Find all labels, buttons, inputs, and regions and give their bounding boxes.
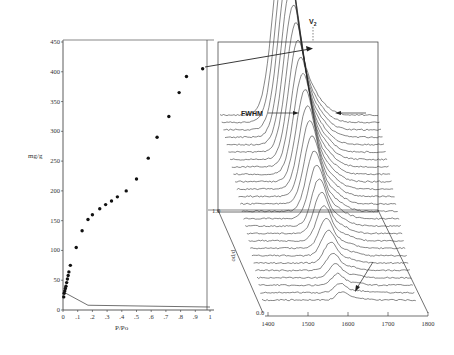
data-point bbox=[147, 156, 150, 159]
y-tick-label: 100 bbox=[50, 246, 60, 253]
data-point bbox=[69, 264, 72, 267]
spectra-traces bbox=[220, 0, 416, 301]
data-point bbox=[167, 115, 170, 118]
wavenumber-ticks: 14001500160017001800 bbox=[262, 312, 435, 327]
x-tick-label: .4 bbox=[119, 313, 125, 320]
x-ticks: 0.1.2.3.4.5.6.7.8.91 bbox=[61, 310, 211, 320]
x-tick-label: .9 bbox=[193, 313, 198, 320]
y-tick-label: 350 bbox=[50, 98, 60, 105]
y-tick-label: 300 bbox=[50, 127, 60, 134]
x-tick-label: .1 bbox=[75, 313, 80, 320]
depth-axis-label: p/po bbox=[231, 250, 238, 262]
data-point bbox=[86, 218, 89, 221]
wavenumber-tick-label: 1800 bbox=[422, 320, 435, 327]
x-axis-label: P/Po bbox=[115, 324, 129, 332]
y-tick-label: 50 bbox=[54, 276, 61, 283]
arrow-head-icon bbox=[306, 46, 313, 52]
data-point bbox=[91, 213, 94, 216]
y-tick-label: 400 bbox=[50, 68, 60, 75]
spectrum-trace bbox=[259, 273, 413, 286]
data-point bbox=[66, 274, 69, 277]
y-tick-label: 450 bbox=[50, 38, 60, 45]
data-point bbox=[185, 75, 188, 78]
y-axis-label: mg/g bbox=[28, 152, 43, 160]
data-point bbox=[177, 91, 180, 94]
depth-bottom-label: 0.0 bbox=[256, 309, 264, 316]
data-point bbox=[64, 284, 67, 287]
y-ticks: 050100150200250300350400450 bbox=[50, 38, 63, 313]
data-point bbox=[98, 207, 101, 210]
data-point bbox=[135, 177, 138, 180]
data-point bbox=[66, 277, 69, 280]
x-tick-label: .8 bbox=[178, 313, 183, 320]
data-point bbox=[65, 281, 68, 284]
data-point bbox=[75, 246, 78, 249]
x-tick-label: .3 bbox=[105, 313, 110, 320]
wavenumber-tick-label: 1400 bbox=[262, 320, 275, 327]
x-tick-label: .6 bbox=[149, 313, 155, 320]
depth-top-label: 1.0 bbox=[212, 207, 220, 214]
data-point bbox=[67, 270, 70, 273]
peak-label: V2 bbox=[309, 18, 317, 27]
x-tick-label: .7 bbox=[163, 313, 169, 320]
y-tick-label: 150 bbox=[50, 217, 60, 224]
wavenumber-tick-label: 1500 bbox=[302, 320, 315, 327]
spectrum-trace bbox=[262, 292, 416, 301]
data-points bbox=[62, 67, 204, 298]
y-tick-label: 0 bbox=[57, 306, 60, 313]
x-tick-label: 1 bbox=[208, 313, 211, 320]
y-tick-label: 250 bbox=[50, 157, 60, 164]
data-point bbox=[201, 67, 204, 70]
baseline-line bbox=[66, 293, 210, 307]
wavenumber-tick-label: 1600 bbox=[342, 320, 355, 327]
y-tick-label: 200 bbox=[50, 187, 60, 194]
spectra-panel: 14001500160017001800 1.0 0.0 p/po V2 FWH… bbox=[208, 0, 435, 327]
data-point bbox=[125, 189, 128, 192]
data-point bbox=[62, 295, 65, 298]
wavenumber-tick-label: 1700 bbox=[382, 320, 395, 327]
x-tick-label: .2 bbox=[90, 313, 95, 320]
data-point bbox=[116, 195, 119, 198]
x-tick-label: 0 bbox=[61, 313, 64, 320]
data-point bbox=[104, 203, 107, 206]
data-point bbox=[110, 199, 113, 202]
data-point bbox=[155, 136, 158, 139]
isotherm-panel: 050100150200250300350400450 0.1.2.3.4.5.… bbox=[28, 38, 214, 332]
data-point bbox=[80, 229, 83, 232]
x-tick-label: .5 bbox=[134, 313, 139, 320]
figure: 050100150200250300350400450 0.1.2.3.4.5.… bbox=[0, 0, 454, 355]
